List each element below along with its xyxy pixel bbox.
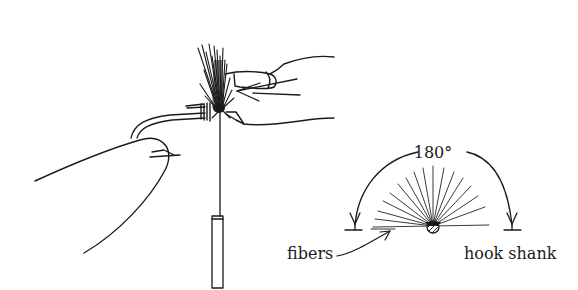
fly-tying-illustration: 180° fibers hook shank xyxy=(0,0,578,290)
bobbin xyxy=(212,112,223,288)
angle-label: 180° xyxy=(414,143,453,162)
angle-inset: 180° xyxy=(345,143,521,233)
hook-shank-label: hook shank xyxy=(464,244,557,263)
direction-arrow-icon xyxy=(237,79,300,101)
hackle-dense-core xyxy=(212,60,225,113)
fibers-leader-arrow-icon xyxy=(337,231,390,256)
fibers-label: fibers xyxy=(287,244,333,263)
spread-fibers xyxy=(373,166,489,227)
left-hand-finger xyxy=(35,138,169,253)
